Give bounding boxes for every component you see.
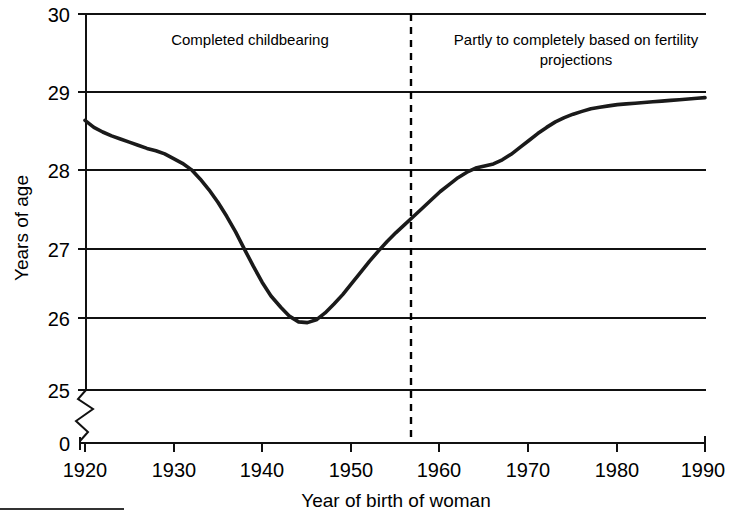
y-tick-label-28: 28 <box>48 160 70 182</box>
x-tick-label-1980: 1980 <box>595 459 640 481</box>
y-axis-title: Years of age <box>11 175 32 281</box>
gridlines <box>85 14 706 390</box>
y-tick-label-30: 30 <box>48 4 70 26</box>
x-tick-label-1970: 1970 <box>506 459 551 481</box>
annotation-fertility-projections-line2: projections <box>540 51 613 68</box>
x-tick-label-1940: 1940 <box>240 459 285 481</box>
y-tick-label-25: 25 <box>48 380 70 402</box>
y-tick-label-26: 26 <box>48 308 70 330</box>
figure-container: 30 29 28 27 26 25 0 1920 1930 1940 1950 … <box>0 0 736 519</box>
y-tick-label-27: 27 <box>48 239 70 261</box>
x-tickmarks <box>85 443 705 452</box>
x-axis-title: Year of birth of woman <box>301 490 490 511</box>
x-tick-label-1920: 1920 <box>63 459 108 481</box>
y-tick-label-29: 29 <box>48 82 70 104</box>
data-series-mean-age <box>85 98 705 323</box>
x-tick-label-1950: 1950 <box>329 459 374 481</box>
x-tick-label-1930: 1930 <box>152 459 197 481</box>
y-tick-label-0: 0 <box>59 433 70 455</box>
annotation-fertility-projections-line1: Partly to completely based on fertility <box>454 31 699 48</box>
annotation-completed-childbearing: Completed childbearing <box>171 31 329 48</box>
x-tick-label-1960: 1960 <box>417 459 462 481</box>
line-chart: 30 29 28 27 26 25 0 1920 1930 1940 1950 … <box>0 0 736 519</box>
y-axis-break-icon <box>76 390 93 441</box>
x-tick-label-1990: 1990 <box>681 459 726 481</box>
